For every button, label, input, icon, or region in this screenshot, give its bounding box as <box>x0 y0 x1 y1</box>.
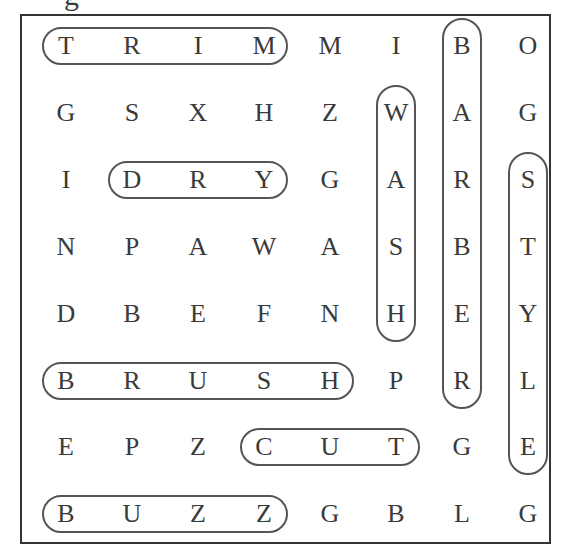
grid-cell[interactable]: C <box>244 427 284 467</box>
grid-cell[interactable]: R <box>112 26 152 66</box>
grid-cell[interactable]: I <box>178 26 218 66</box>
grid-cell[interactable]: H <box>244 93 284 133</box>
grid-cell[interactable]: E <box>178 294 218 334</box>
grid-cell[interactable]: I <box>46 160 86 200</box>
grid-cell[interactable]: O <box>508 26 548 66</box>
grid-cell[interactable]: G <box>310 160 350 200</box>
grid-cell[interactable]: D <box>46 294 86 334</box>
grid-cell[interactable]: U <box>310 427 350 467</box>
grid-cell[interactable]: M <box>310 26 350 66</box>
found-word-barber <box>442 18 482 409</box>
grid-cell[interactable]: W <box>244 227 284 267</box>
grid-cell[interactable]: E <box>46 427 86 467</box>
grid-cell[interactable]: P <box>112 227 152 267</box>
grid-cell[interactable]: H <box>376 294 416 334</box>
grid-cell[interactable]: B <box>46 494 86 534</box>
grid-cell[interactable]: R <box>442 160 482 200</box>
grid-cell[interactable]: S <box>508 160 548 200</box>
title-fragment: g <box>64 0 79 12</box>
grid-cell[interactable]: G <box>310 494 350 534</box>
grid-cell[interactable]: N <box>310 294 350 334</box>
grid-cell[interactable]: I <box>376 26 416 66</box>
grid-cell[interactable]: A <box>442 93 482 133</box>
grid-cell[interactable]: G <box>442 427 482 467</box>
grid-cell[interactable]: Y <box>244 160 284 200</box>
grid-cell[interactable]: G <box>46 93 86 133</box>
grid-cell[interactable]: D <box>112 160 152 200</box>
grid-cell[interactable]: B <box>112 294 152 334</box>
grid-cell[interactable]: B <box>376 494 416 534</box>
grid-cell[interactable]: Z <box>178 494 218 534</box>
grid-cell[interactable]: Z <box>178 427 218 467</box>
grid-cell[interactable]: A <box>178 227 218 267</box>
grid-cell[interactable]: B <box>442 227 482 267</box>
grid-cell[interactable]: H <box>310 361 350 401</box>
grid-cell[interactable]: Z <box>244 494 284 534</box>
grid-cell[interactable]: S <box>244 361 284 401</box>
grid-cell[interactable]: W <box>376 93 416 133</box>
grid-cell[interactable]: L <box>442 494 482 534</box>
grid-cell[interactable]: T <box>46 26 86 66</box>
grid-cell[interactable]: E <box>442 294 482 334</box>
grid-cell[interactable]: S <box>376 227 416 267</box>
grid-cell[interactable]: B <box>46 361 86 401</box>
grid-cell[interactable]: F <box>244 294 284 334</box>
grid-cell[interactable]: U <box>178 361 218 401</box>
grid-cell[interactable]: P <box>112 427 152 467</box>
grid-cell[interactable]: B <box>442 26 482 66</box>
grid-cell[interactable]: T <box>376 427 416 467</box>
grid-cell[interactable]: X <box>178 93 218 133</box>
grid-cell[interactable]: R <box>442 361 482 401</box>
grid-cell[interactable]: S <box>112 93 152 133</box>
grid-cell[interactable]: G <box>508 93 548 133</box>
grid-cell[interactable]: Z <box>310 93 350 133</box>
grid-cell[interactable]: A <box>310 227 350 267</box>
grid-cell[interactable]: R <box>178 160 218 200</box>
grid-cell[interactable]: A <box>376 160 416 200</box>
grid-cell[interactable]: U <box>112 494 152 534</box>
grid-cell[interactable]: Y <box>508 294 548 334</box>
grid-cell[interactable]: G <box>508 494 548 534</box>
grid-cell[interactable]: L <box>508 361 548 401</box>
grid-cell[interactable]: E <box>508 427 548 467</box>
grid-cell[interactable]: T <box>508 227 548 267</box>
grid-cell[interactable]: M <box>244 26 284 66</box>
grid-cell[interactable]: P <box>376 361 416 401</box>
grid-cell[interactable]: R <box>112 361 152 401</box>
grid-cell[interactable]: N <box>46 227 86 267</box>
